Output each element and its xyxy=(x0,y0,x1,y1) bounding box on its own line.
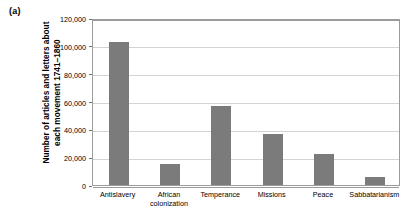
bar xyxy=(109,42,129,185)
y-axis-tick-label: 0 xyxy=(82,182,86,191)
y-axis-tick-label: 60,000 xyxy=(64,98,86,107)
y-axis-tick-label: 100,000 xyxy=(60,42,86,51)
y-axis-tick-label: 40,000 xyxy=(64,126,86,135)
panel-letter-label: (a) xyxy=(9,6,21,16)
axis-rule xyxy=(93,20,399,21)
gridline xyxy=(93,47,399,48)
y-axis-tick-label: 80,000 xyxy=(64,70,86,79)
y-axis-tick-label: 20,000 xyxy=(64,154,86,163)
axis-rule xyxy=(93,187,399,188)
y-axis-tick-group: 020,00040,00060,00080,000100,000120,000 xyxy=(52,19,92,186)
bar xyxy=(365,177,385,185)
bar xyxy=(160,164,180,185)
bar xyxy=(263,134,283,185)
gridline xyxy=(93,103,399,104)
y-axis-tick-label: 120,000 xyxy=(60,15,86,24)
gridline xyxy=(93,75,399,76)
figure-panel-a: (a) Number of articles and letters about… xyxy=(0,0,415,224)
plot-area xyxy=(92,19,400,186)
gridline xyxy=(93,131,399,132)
bar xyxy=(211,106,231,185)
x-axis-tick-label: Sabbatarianism xyxy=(345,190,404,199)
gridline xyxy=(93,159,399,160)
bar xyxy=(314,154,334,185)
